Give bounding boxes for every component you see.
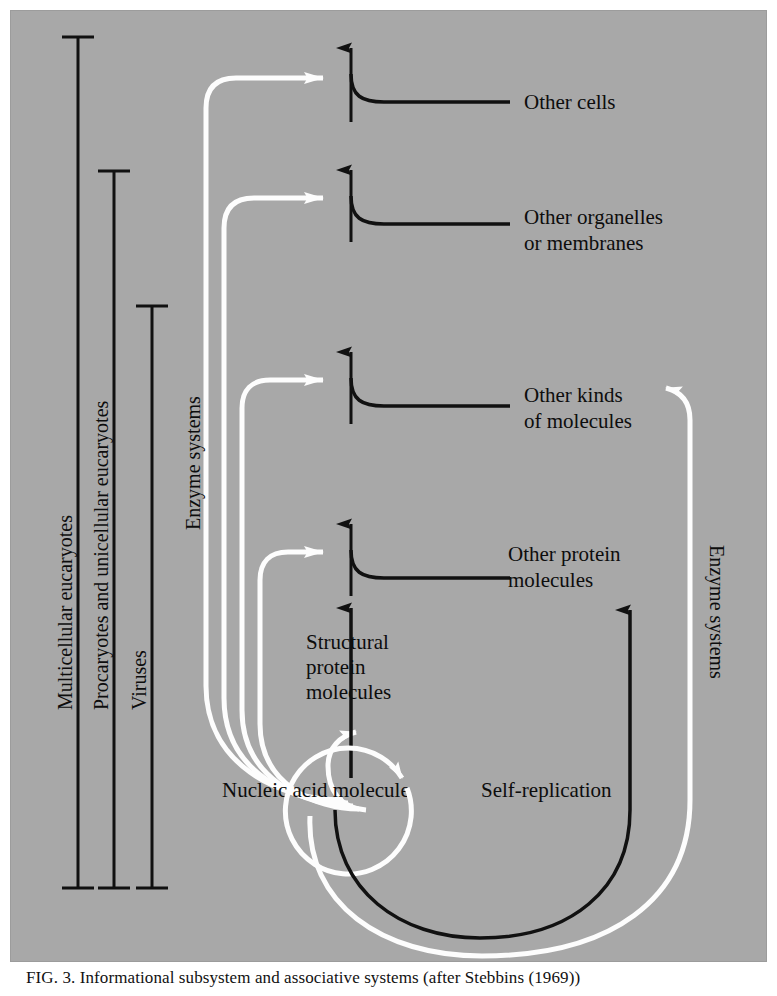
bracket-group: Multicellular eucaryotes Procaryotes and… xyxy=(54,37,168,888)
node-other-cells xyxy=(351,48,510,122)
figure-caption-text: Informational subsystem and associative … xyxy=(80,968,580,987)
center-label-nucleic-acid-molecule: Nucleic acid molecule xyxy=(222,778,410,802)
self-replication-arc xyxy=(285,748,411,874)
node-label-other-kinds-line2: of molecules xyxy=(524,409,632,433)
self-replication-loop xyxy=(285,748,411,874)
node-label-other-cells: Other cells xyxy=(524,90,616,114)
node-label-other-kinds-line1: Other kinds xyxy=(524,383,623,407)
black-return-arc-to-other-protein xyxy=(335,610,630,938)
node-label-other-organelles-line2: or membranes xyxy=(524,231,644,255)
bracket-label-procaryotes-unicellular-eucaryotes: Procaryotes and unicellular eucaryotes xyxy=(90,400,113,710)
node-label-other-organelles-line1: Other organelles xyxy=(524,205,663,229)
node-label-other-protein-line1: Other protein xyxy=(508,542,621,566)
figure-root: Multicellular eucaryotes Procaryotes and… xyxy=(0,0,777,996)
self-replication-label: Self-replication xyxy=(481,778,612,802)
enzyme-systems-left-label: Enzyme systems xyxy=(182,396,205,530)
center-label-structural-protein-line3: molecules xyxy=(306,680,391,704)
node-label-other-protein-line2: molecules xyxy=(508,568,593,592)
node-connector-other-organelles xyxy=(351,196,510,224)
diagram-panel: Multicellular eucaryotes Procaryotes and… xyxy=(10,10,767,962)
figure-caption-label: FIG. 3. xyxy=(26,968,75,987)
figure-caption: FIG. 3. Informational subsystem and asso… xyxy=(26,968,756,988)
center-label-structural-protein-line2: protein xyxy=(306,655,366,679)
bracket-label-viruses: Viruses xyxy=(128,650,150,710)
diagram-canvas: Multicellular eucaryotes Procaryotes and… xyxy=(10,10,767,962)
node-other-protein-molecules xyxy=(351,524,510,596)
node-connector-other-kinds-of-molecules xyxy=(351,378,510,406)
enzyme-systems-right-label: Enzyme systems xyxy=(705,545,728,679)
center-label-structural-protein-line1: Structural xyxy=(306,630,389,654)
node-connector-other-protein-molecules xyxy=(351,550,510,578)
node-other-organelles xyxy=(351,170,510,242)
bracket-viruses xyxy=(136,306,168,888)
node-connector-other-cells xyxy=(351,74,510,102)
node-other-kinds-of-molecules xyxy=(351,352,510,424)
bracket-label-multicellular-eucaryotes: Multicellular eucaryotes xyxy=(54,515,77,710)
